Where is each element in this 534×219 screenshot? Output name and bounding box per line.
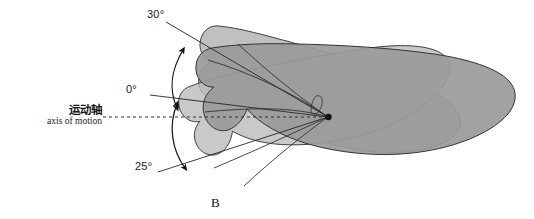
panel-letter-b: B: [211, 196, 220, 210]
axis-of-motion-label-chinese: 运动轴: [14, 104, 102, 116]
pivot-point: [325, 114, 331, 120]
body-neutral-0: [196, 44, 515, 155]
shape-stack: [174, 19, 515, 186]
axis-of-motion-label: 运动轴 axis of motion: [14, 104, 102, 127]
angle-label-0: 0°: [126, 84, 137, 96]
figure-panel-b: 30° 0° 25° 运动轴 axis of motion B: [0, 0, 534, 219]
angle-label-25: 25°: [135, 161, 152, 173]
axis-of-motion-label-english: axis of motion: [14, 117, 102, 127]
angle-label-30: 30°: [147, 9, 164, 21]
